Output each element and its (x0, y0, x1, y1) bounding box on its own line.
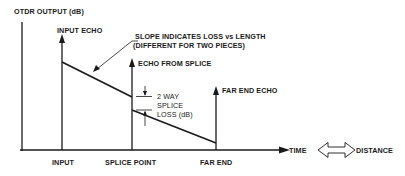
x-tick-input: INPUT (52, 158, 74, 167)
splice-echo-label: ECHO FROM SPLICE (138, 59, 211, 68)
far-end-echo-label: FAR END ECHO (222, 86, 278, 95)
y-axis-label: OTDR OUTPUT (dB) (14, 7, 84, 16)
distance-label: DISTANCE (356, 146, 393, 155)
slope-leader-arrowhead-icon (93, 65, 100, 72)
time-label: TIME (289, 146, 307, 155)
slope-annotation-line1: SLOPE INDICATES LOSS vs LENGTH (135, 32, 266, 41)
otdr-diagram: OTDR OUTPUT (dB) INPUT ECHO SLOPE INDICA… (0, 0, 405, 176)
input-echo-arrowhead-icon (59, 34, 65, 43)
loss-dimension-down-arrow-icon (143, 91, 147, 96)
input-echo-label: INPUT ECHO (57, 26, 102, 35)
time-distance-double-arrow-icon (318, 143, 355, 158)
loss-dimension-up-arrow-icon (143, 111, 147, 116)
slope-annotation-line2: (DIFFERENT FOR TWO PIECES) (133, 41, 245, 50)
splice-loss-line3: LOSS (dB) (157, 110, 193, 119)
x-tick-splice-point: SPLICE POINT (105, 158, 156, 167)
far-end-echo-arrowhead-icon (213, 86, 219, 95)
splice-loss-line2: SPLICE (157, 101, 183, 110)
splice-echo-arrowhead-icon (129, 58, 135, 67)
splice-loss-line1: 2 WAY (157, 92, 179, 101)
x-tick-far-end: FAR END (200, 158, 232, 167)
